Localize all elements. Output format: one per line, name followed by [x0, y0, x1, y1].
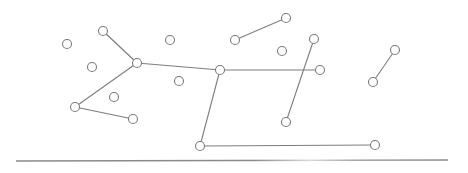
node-circle-icon: [99, 27, 108, 36]
node-circle-icon: [216, 66, 225, 75]
edge-n11-n12: [235, 18, 286, 40]
edge-n3-n5: [75, 63, 137, 107]
edge-n3-n10: [137, 63, 220, 70]
node-circle-icon: [166, 36, 175, 45]
node-layer: [63, 14, 400, 151]
node-circle-icon: [71, 103, 80, 112]
node-circle-icon: [316, 66, 325, 75]
node-circle-icon: [369, 78, 378, 87]
graph-svg: [0, 0, 468, 173]
node-circle-icon: [391, 46, 400, 55]
edge-n17-n18: [200, 145, 375, 146]
node-circle-icon: [88, 63, 97, 72]
edge-n14-n16: [286, 39, 314, 122]
node-circle-icon: [371, 141, 380, 150]
edge-n2-n3: [103, 31, 137, 63]
node-circle-icon: [278, 47, 287, 56]
node-circle-icon: [282, 14, 291, 23]
baseline-axis: [16, 160, 448, 161]
node-circle-icon: [63, 40, 72, 49]
graph-diagram: [0, 0, 468, 173]
node-circle-icon: [282, 118, 291, 127]
node-circle-icon: [310, 35, 319, 44]
node-circle-icon: [129, 115, 138, 124]
node-circle-icon: [110, 93, 119, 102]
node-circle-icon: [196, 142, 205, 151]
edge-n10-n17: [200, 70, 220, 146]
edge-n5-n6: [75, 107, 133, 119]
node-circle-icon: [231, 36, 240, 45]
node-circle-icon: [175, 77, 184, 86]
node-circle-icon: [133, 59, 142, 68]
edge-n19-n20: [373, 50, 395, 82]
